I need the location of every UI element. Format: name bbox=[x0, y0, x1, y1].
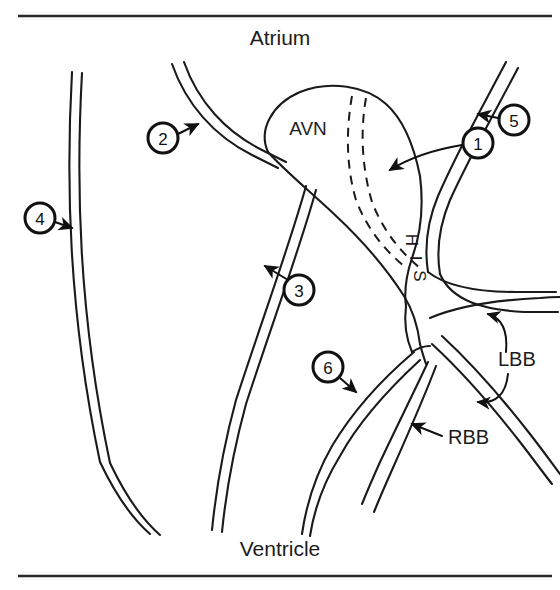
mid-internodal-pathway bbox=[212, 186, 316, 532]
callout-2-number: 2 bbox=[158, 130, 167, 149]
left-bundle-branch bbox=[430, 297, 560, 484]
callout-5-leader bbox=[478, 114, 498, 118]
callout-6-leader bbox=[340, 378, 356, 392]
left-atrial-pathway bbox=[69, 72, 160, 535]
rbb-label: RBB bbox=[448, 426, 489, 448]
avn-label: AVN bbox=[289, 118, 327, 139]
ventricle-label: Ventricle bbox=[240, 537, 321, 560]
callout-3-number: 3 bbox=[294, 282, 303, 301]
conduction-system-figure: Atrium Ventricle AVN H I S RBB LBB 1 2 bbox=[0, 0, 560, 590]
callout-5-number: 5 bbox=[509, 112, 518, 131]
callout-2-leader bbox=[178, 124, 198, 134]
callout-6-number: 6 bbox=[323, 359, 332, 378]
lbb-label: LBB bbox=[498, 348, 536, 370]
his-bundle-label: H I S bbox=[402, 234, 429, 282]
right-crux-branch bbox=[428, 272, 558, 312]
his-letter-h: H bbox=[402, 234, 421, 246]
right-atrial-pathway bbox=[426, 62, 518, 274]
callout-1-number: 1 bbox=[473, 135, 482, 154]
his-letter-i: I bbox=[406, 256, 425, 261]
his-letter-s: S bbox=[410, 270, 429, 281]
rbb-leader-arrow bbox=[412, 424, 442, 436]
right-bundle-branch bbox=[362, 362, 436, 512]
his-bundle bbox=[405, 306, 426, 364]
callout-6[interactable]: 6 bbox=[313, 352, 356, 392]
callout-4[interactable]: 4 bbox=[25, 203, 72, 233]
lbb-leader-arrow-upper bbox=[488, 314, 506, 352]
atrium-label: Atrium bbox=[250, 26, 311, 49]
callout-2[interactable]: 2 bbox=[148, 123, 198, 153]
callout-1[interactable]: 1 bbox=[390, 128, 493, 170]
diagram-canvas: Atrium Ventricle AVN H I S RBB LBB 1 2 bbox=[0, 0, 560, 590]
callout-4-number: 4 bbox=[35, 210, 44, 229]
